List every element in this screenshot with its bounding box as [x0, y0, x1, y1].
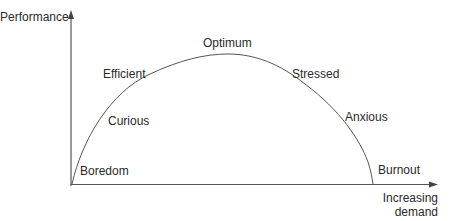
label-anxious: Anxious [345, 110, 388, 124]
label-optimum: Optimum [203, 36, 252, 50]
x-axis-arrow-icon [429, 182, 438, 188]
label-boredom: Boredom [80, 164, 129, 178]
label-curious: Curious [108, 114, 149, 128]
x-axis-label: Increasing demand [374, 191, 438, 219]
label-burnout: Burnout [378, 163, 420, 177]
label-stressed: Stressed [292, 67, 339, 81]
label-efficient: Efficient [103, 67, 145, 81]
x-axis-label-line1: Increasing [374, 191, 438, 205]
y-axis-label: Performance [0, 10, 69, 24]
x-axis-label-line2: demand [374, 205, 438, 219]
